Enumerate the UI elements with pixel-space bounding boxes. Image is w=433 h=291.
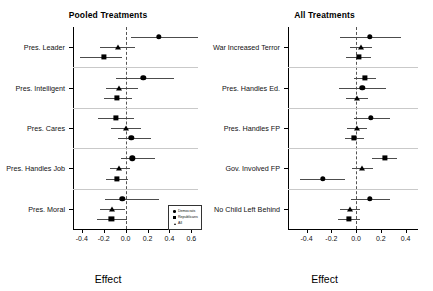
y-tick bbox=[284, 209, 288, 210]
group-separator bbox=[73, 148, 198, 149]
group-separator bbox=[288, 189, 418, 190]
data-point-square bbox=[114, 95, 119, 100]
data-point-circle bbox=[368, 115, 373, 120]
legend-label: All bbox=[178, 222, 182, 226]
x-tick-label: 0.4 bbox=[391, 235, 421, 242]
confidence-interval bbox=[131, 37, 198, 38]
y-tick bbox=[69, 47, 73, 48]
x-tick bbox=[331, 229, 332, 233]
group-separator bbox=[73, 189, 198, 190]
plot-area: -0.4-0.20.00.20.4War Increased TerrorPre… bbox=[288, 27, 418, 229]
legend-entry: Democrats bbox=[171, 209, 198, 215]
data-point-triangle bbox=[123, 126, 129, 131]
data-point-triangle bbox=[347, 206, 353, 211]
y-tick bbox=[284, 168, 288, 169]
panel-all-treatments: All Treatments -0.4-0.20.00.20.4War Incr… bbox=[216, 0, 433, 291]
legend: DemocratsRepublicansAll bbox=[168, 205, 202, 230]
forest-plot-figure: Pooled Treatments -0.4-0.20.00.20.40.6Pr… bbox=[0, 0, 433, 291]
data-point-square bbox=[109, 216, 114, 221]
data-point-square bbox=[346, 216, 351, 221]
x-tick bbox=[104, 229, 105, 233]
x-axis-title: Effect bbox=[0, 273, 216, 285]
data-point-circle bbox=[367, 34, 372, 39]
data-point-square bbox=[356, 55, 361, 60]
category-label: Pres. Handles Job bbox=[6, 164, 65, 173]
data-point-square bbox=[113, 115, 118, 120]
category-label: Pres. Moral bbox=[28, 204, 65, 213]
data-point-triangle bbox=[354, 95, 360, 100]
data-point-square bbox=[114, 176, 119, 181]
group-separator bbox=[288, 67, 418, 68]
x-tick bbox=[148, 229, 149, 233]
confidence-interval bbox=[118, 138, 151, 139]
y-tick bbox=[69, 168, 73, 169]
y-tick bbox=[284, 88, 288, 89]
x-tick bbox=[307, 229, 308, 233]
x-tick bbox=[356, 229, 357, 233]
data-point-circle bbox=[320, 176, 325, 181]
group-separator bbox=[288, 108, 418, 109]
category-label: Pres. Handles FP bbox=[224, 124, 280, 133]
data-point-square bbox=[101, 55, 106, 60]
data-point-triangle bbox=[359, 166, 365, 171]
category-label: War Increased Terror bbox=[213, 43, 280, 52]
group-separator bbox=[73, 67, 198, 68]
x-tick bbox=[126, 229, 127, 233]
category-label: Pres. Leader bbox=[24, 43, 65, 52]
y-tick bbox=[284, 47, 288, 48]
panel-title: All Treatments bbox=[216, 10, 433, 20]
y-tick bbox=[284, 128, 288, 129]
category-label: Pres. Cares bbox=[27, 124, 65, 133]
confidence-interval bbox=[121, 158, 155, 159]
category-label: No Child Left Behind bbox=[214, 204, 280, 213]
legend-label: Republicans bbox=[178, 216, 198, 220]
x-tick bbox=[406, 229, 407, 233]
legend-marker-square-icon bbox=[171, 216, 178, 219]
data-point-triangle bbox=[116, 166, 122, 171]
x-tick bbox=[82, 229, 83, 233]
panel-pooled-treatments: Pooled Treatments -0.4-0.20.00.20.40.6Pr… bbox=[0, 0, 216, 291]
category-label: Gov. Involved FP bbox=[225, 164, 280, 173]
data-point-square bbox=[362, 75, 367, 80]
data-point-circle bbox=[367, 196, 372, 201]
data-point-circle bbox=[128, 135, 133, 140]
x-axis-title: Effect bbox=[216, 273, 433, 285]
legend-entry: All bbox=[171, 221, 198, 227]
y-tick bbox=[69, 128, 73, 129]
group-separator bbox=[73, 108, 198, 109]
data-point-circle bbox=[360, 85, 365, 90]
y-axis-spine bbox=[73, 27, 74, 229]
y-tick bbox=[69, 209, 73, 210]
x-tick bbox=[381, 229, 382, 233]
data-point-triangle bbox=[116, 85, 122, 90]
data-point-triangle bbox=[358, 45, 364, 50]
panel-title: Pooled Treatments bbox=[0, 10, 216, 20]
legend-entry: Republicans bbox=[171, 215, 198, 221]
data-point-triangle bbox=[109, 206, 115, 211]
confidence-interval bbox=[105, 199, 159, 200]
data-point-triangle bbox=[115, 45, 121, 50]
data-point-circle bbox=[120, 196, 125, 201]
group-separator bbox=[288, 148, 418, 149]
category-label: Pres. Intelligent bbox=[15, 83, 65, 92]
y-tick bbox=[69, 88, 73, 89]
category-label: Pres. Handles Ed. bbox=[222, 83, 280, 92]
data-point-square bbox=[382, 156, 387, 161]
data-point-circle bbox=[140, 75, 145, 80]
data-point-square bbox=[351, 136, 356, 141]
y-axis-spine bbox=[288, 27, 289, 229]
data-point-circle bbox=[156, 34, 161, 39]
legend-marker-triangle-icon bbox=[171, 223, 178, 225]
legend-marker-circle-icon bbox=[171, 210, 178, 213]
plot-area: -0.4-0.20.00.20.40.6Pres. LeaderPres. In… bbox=[73, 27, 198, 229]
x-tick-label: 0.6 bbox=[176, 235, 206, 242]
legend-label: Democrats bbox=[178, 210, 195, 214]
data-point-triangle bbox=[354, 126, 360, 131]
data-point-circle bbox=[130, 156, 135, 161]
